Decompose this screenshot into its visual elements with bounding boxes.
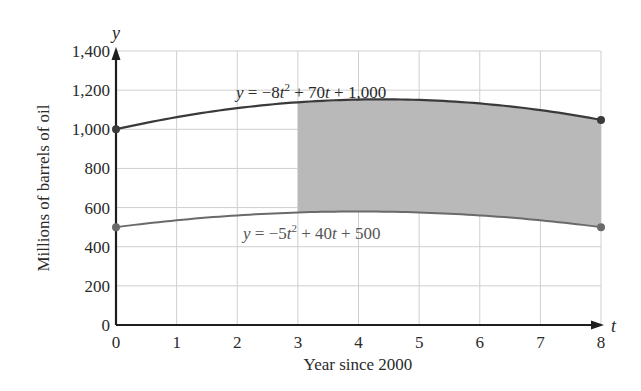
x-tick-labels: 012345678	[112, 333, 606, 352]
x-tick-label: 6	[476, 333, 485, 352]
y-axis-variable: y	[110, 23, 120, 43]
x-tick-label: 0	[112, 333, 121, 352]
x-tick-label: 1	[172, 333, 181, 352]
x-tick-label: 4	[354, 333, 363, 352]
endpoint-marker	[597, 223, 605, 231]
x-axis-variable: t	[611, 316, 617, 336]
x-tick-label: 3	[294, 333, 303, 352]
endpoint-marker	[597, 116, 605, 124]
endpoint-marker	[112, 125, 120, 133]
y-tick-label: 1,000	[72, 120, 110, 139]
x-tick-label: 2	[233, 333, 242, 352]
x-tick-label: 7	[536, 333, 545, 352]
x-tick-label: 5	[415, 333, 424, 352]
y-axis-title: Millions of barrels of oil	[34, 104, 53, 271]
y-axis-arrow-icon	[112, 47, 121, 60]
shaded-region	[298, 99, 601, 227]
y-tick-labels: 02004006008001,0001,2001,400	[72, 42, 110, 335]
lower-curve-equation: y = −5t2 + 40t + 500	[241, 222, 380, 243]
y-tick-label: 600	[85, 199, 111, 218]
x-axis-arrow-icon	[591, 321, 604, 330]
upper-curve-equation: y = −8t2 + 70t + 1,000	[234, 81, 386, 102]
y-tick-label: 400	[85, 238, 111, 257]
y-tick-label: 800	[85, 159, 111, 178]
y-tick-label: 1,200	[72, 81, 110, 100]
x-axis-title: Year since 2000	[304, 355, 413, 374]
endpoint-marker	[112, 223, 120, 231]
y-tick-label: 1,400	[72, 42, 110, 61]
y-tick-label: 200	[85, 277, 111, 296]
x-tick-label: 8	[597, 333, 606, 352]
chart: 012345678 02004006008001,0001,2001,400 y…	[0, 0, 641, 391]
y-tick-label: 0	[102, 316, 111, 335]
